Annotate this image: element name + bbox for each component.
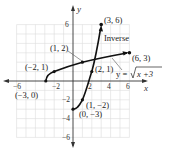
label-2-1: (2, 1) bbox=[95, 64, 114, 74]
tick-y-neg2: −2 bbox=[62, 95, 70, 104]
function-label: y = x +3 bbox=[116, 67, 162, 79]
point-6-3 bbox=[128, 51, 132, 55]
y-axis-label: y bbox=[76, 4, 81, 14]
y-axis-top-arrow-icon bbox=[71, 5, 75, 11]
graph: −6 −2 2 4 6 x 6 −2 −4 −6 y (−3, 0) (−2, … bbox=[0, 0, 170, 154]
tick-x-4: 4 bbox=[107, 82, 111, 91]
label-1-2: (1, 2) bbox=[50, 43, 69, 53]
function-label-lhs: y = bbox=[116, 69, 127, 79]
tick-y-neg4: −4 bbox=[62, 114, 70, 123]
point-1-neg2 bbox=[81, 98, 84, 101]
x-axis-label: x bbox=[143, 83, 148, 93]
label-0-neg3: (0, −3) bbox=[79, 109, 102, 119]
label-6-3: (6, 3) bbox=[132, 53, 151, 63]
label-3-6: (3, 6) bbox=[104, 15, 123, 25]
point-neg3-0 bbox=[44, 79, 47, 82]
tick-y-6: 6 bbox=[65, 20, 69, 29]
label-neg3-0: (−3, 0) bbox=[15, 90, 38, 100]
sqrt-curve bbox=[46, 53, 127, 81]
point-neg2-1 bbox=[53, 70, 56, 73]
label-1-neg2: (1, −2) bbox=[86, 100, 109, 110]
y-axis-bottom-arrow-icon bbox=[71, 142, 75, 148]
tick-x-6: 6 bbox=[126, 82, 130, 91]
point-2-1 bbox=[90, 70, 93, 73]
sqrt-curve-arrow-icon bbox=[123, 51, 129, 55]
label-neg2-1: (−2, 1) bbox=[25, 62, 48, 72]
point-3-6 bbox=[99, 23, 103, 27]
tick-y-neg6: −6 bbox=[62, 133, 70, 142]
inverse-label: Inverse bbox=[104, 33, 129, 43]
point-1-2 bbox=[81, 61, 84, 64]
x-axis-left-arrow-icon bbox=[3, 79, 9, 83]
function-label-radicand: x +3 bbox=[136, 69, 153, 79]
point-0-neg3 bbox=[71, 108, 74, 111]
tick-x-neg2: −2 bbox=[52, 82, 60, 91]
